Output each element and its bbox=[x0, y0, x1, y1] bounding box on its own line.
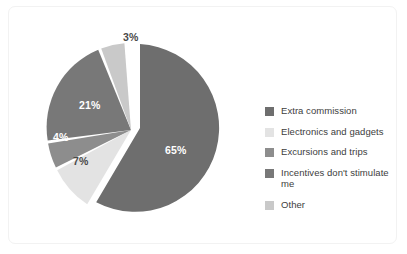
legend-swatch-icon bbox=[265, 128, 274, 137]
legend-swatch-icon bbox=[265, 169, 274, 178]
legend-item-electronics-and-gadgets[interactable]: Electronics and gadgets bbox=[265, 126, 393, 138]
legend-label: Extra commission bbox=[281, 105, 357, 117]
pie-label-extra-commission: 65% bbox=[165, 144, 186, 156]
legend-swatch-icon bbox=[265, 107, 274, 116]
pie-label-other: 3% bbox=[123, 31, 138, 43]
chart-legend: Extra commission Electronics and gadgets… bbox=[265, 105, 393, 219]
legend-swatch-icon bbox=[265, 201, 274, 210]
chart-frame: 65% 7% 4% 21% 3% Extra commission Electr… bbox=[8, 6, 397, 244]
legend-item-incentives-dont-stimulate-me[interactable]: Incentives don't stimulate me bbox=[265, 167, 393, 190]
legend-item-excursions-and-trips[interactable]: Excursions and trips bbox=[265, 146, 393, 158]
pie-label-incentives-dont-stimulate-me: 21% bbox=[79, 99, 100, 111]
legend-swatch-icon bbox=[265, 148, 274, 157]
legend-label: Incentives don't stimulate me bbox=[281, 167, 393, 190]
legend-item-extra-commission[interactable]: Extra commission bbox=[265, 105, 393, 117]
legend-label: Excursions and trips bbox=[281, 146, 368, 158]
pie-chart: 65% 7% 4% 21% 3% bbox=[9, 7, 259, 245]
pie-label-electronics-and-gadgets: 7% bbox=[73, 155, 88, 167]
legend-item-other[interactable]: Other bbox=[265, 199, 393, 211]
legend-label: Electronics and gadgets bbox=[281, 126, 384, 138]
legend-label: Other bbox=[281, 199, 305, 211]
pie-label-excursions-and-trips: 4% bbox=[53, 131, 68, 143]
